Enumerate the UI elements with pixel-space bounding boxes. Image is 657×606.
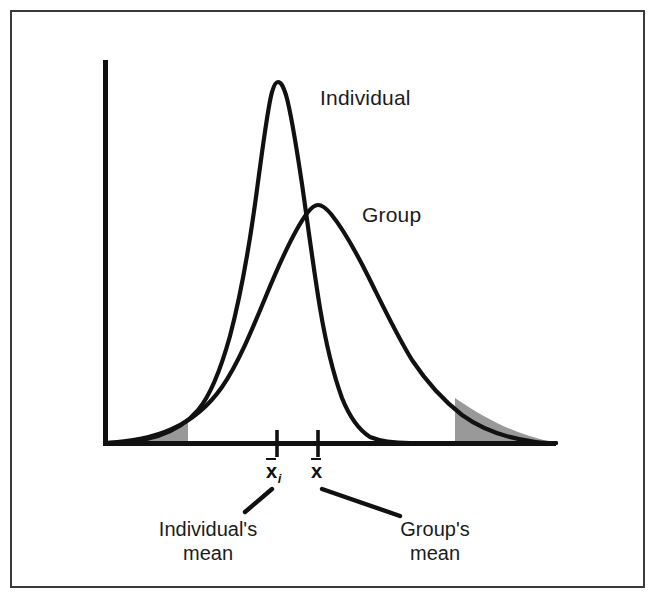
group-distribution-curve: [105, 205, 556, 443]
tick-label-individual-mean: xi: [266, 458, 281, 486]
individual-mean-leader-line: [245, 489, 272, 512]
figure-container: Individual Group xi x Individual's mean …: [0, 0, 657, 606]
group-mean-leader-line: [322, 489, 400, 516]
individual-curve-label: Individual: [320, 86, 411, 110]
tick-label-individual-base: x: [266, 460, 277, 482]
group-mean-annotation: Group's mean: [375, 518, 495, 565]
overbar-individual: [266, 458, 276, 460]
tick-label-group-mean: x: [311, 458, 322, 483]
group-curve-label: Group: [362, 203, 421, 227]
tick-label-group-base: x: [311, 460, 322, 482]
overbar-group: [311, 458, 321, 460]
individual-mean-annotation-line2: mean: [133, 542, 283, 566]
individual-mean-annotation-line1: Individual's: [133, 518, 283, 542]
group-mean-annotation-line2: mean: [375, 542, 495, 566]
tick-label-individual-subscript: i: [278, 471, 282, 486]
individual-distribution-curve: [105, 82, 556, 443]
individual-mean-annotation: Individual's mean: [133, 518, 283, 565]
group-mean-annotation-line1: Group's: [375, 518, 495, 542]
